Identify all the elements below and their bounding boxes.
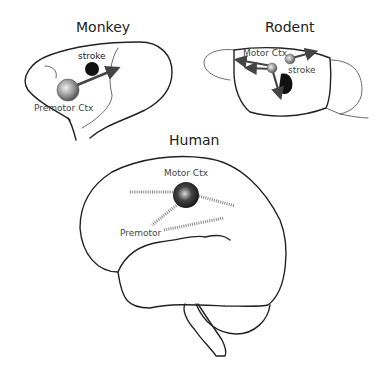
rodent-brainstem	[340, 114, 368, 118]
human-region-label: Motor Ctx	[164, 168, 209, 178]
human-motor-sphere	[173, 182, 199, 208]
human-secondary-label: Premotor	[120, 228, 162, 238]
brain-comparison-diagram: Monkey stroke Premotor Ctx Rodent Motor …	[0, 0, 391, 376]
rodent-arrow-down	[273, 72, 280, 96]
rodent-arrow-left-1	[238, 60, 272, 66]
human-brain-outline	[80, 157, 286, 308]
rodent-motor-sphere-1	[267, 63, 277, 73]
human-panel: Human Motor Ctx Premotor	[80, 132, 286, 356]
monkey-panel: Monkey stroke Premotor Ctx	[25, 19, 172, 140]
monkey-region-label: Premotor Ctx	[34, 103, 94, 113]
rodent-title: Rodent	[265, 19, 315, 35]
rodent-cerebellum	[326, 60, 362, 114]
rodent-region-label: Motor Ctx	[243, 48, 288, 58]
rodent-olfactory-bulb	[204, 50, 234, 81]
rodent-panel: Rodent Motor Ctx stroke	[204, 19, 368, 118]
rodent-arrow-right	[292, 52, 314, 58]
monkey-premotor-sphere	[57, 79, 79, 101]
monkey-stroke-lesion	[85, 62, 99, 76]
monkey-stroke-label: stroke	[78, 51, 106, 61]
rodent-stroke-label: stroke	[288, 65, 316, 75]
human-projection-premotor	[152, 204, 178, 225]
rodent-stroke-lesion	[279, 74, 292, 94]
monkey-sulcus-arcuate	[45, 66, 56, 78]
human-projection-lower	[164, 218, 224, 230]
human-title: Human	[169, 132, 220, 148]
human-lateral-sulcus	[118, 236, 230, 272]
monkey-brainstem	[68, 118, 76, 140]
monkey-title: Monkey	[76, 19, 130, 35]
human-projection-right	[199, 196, 235, 206]
